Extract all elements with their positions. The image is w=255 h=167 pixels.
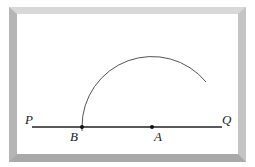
label-q: Q bbox=[222, 112, 232, 127]
label-b: B bbox=[70, 129, 78, 144]
label-a: A bbox=[153, 129, 162, 144]
label-p: P bbox=[24, 112, 33, 127]
point-b bbox=[80, 125, 84, 129]
arc bbox=[82, 57, 206, 131]
geometry-diagram: P Q B A bbox=[0, 0, 255, 167]
